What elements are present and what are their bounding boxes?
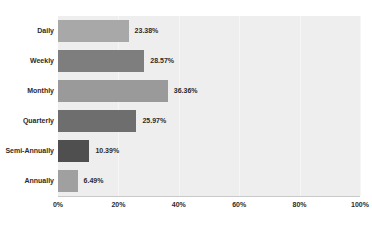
bar-chart: 23.38%28.57%36.36%25.97%10.39%6.49% Dail… (0, 0, 372, 227)
gridline-100% (360, 16, 361, 196)
bar-row: 36.36% (58, 76, 360, 106)
bar-row: 28.57% (58, 46, 360, 76)
bar-annually[interactable] (58, 170, 78, 192)
bar-daily[interactable] (58, 20, 129, 42)
bar-row: 23.38% (58, 16, 360, 46)
x-tick-label-0pct: 0% (53, 201, 63, 208)
x-tick-label-40pct: 40% (172, 201, 186, 208)
bar-value-label: 23.38% (129, 20, 159, 42)
bar-value-label: 36.36% (168, 80, 198, 102)
bar-monthly[interactable] (58, 80, 168, 102)
bar-value-label: 10.39% (89, 140, 119, 162)
bar-value-label: 6.49% (78, 170, 104, 192)
y-tick-label-annually: Annually (0, 166, 54, 196)
bar-value-label: 28.57% (144, 50, 174, 72)
y-tick-label-weekly: Weekly (0, 46, 54, 76)
y-axis-category-labels: DailyWeeklyMonthlyQuarterlySemi-Annually… (0, 16, 54, 196)
y-tick-label-daily: Daily (0, 16, 54, 46)
x-axis-line (58, 196, 360, 197)
x-tick-label-80pct: 80% (293, 201, 307, 208)
bar-weekly[interactable] (58, 50, 144, 72)
y-tick-label-semi-annually: Semi-Annually (0, 136, 54, 166)
y-tick-label-monthly: Monthly (0, 76, 54, 106)
y-tick-label-quarterly: Quarterly (0, 106, 54, 136)
bar-semi-annually[interactable] (58, 140, 89, 162)
x-axis-tick-labels: 0%20%40%60%80%100% (0, 201, 372, 215)
x-tick-label-60pct: 60% (232, 201, 246, 208)
x-tick-label-20pct: 20% (111, 201, 125, 208)
bar-quarterly[interactable] (58, 110, 136, 132)
bar-value-label: 25.97% (136, 110, 166, 132)
x-tick-label-100pct: 100% (351, 201, 369, 208)
bar-row: 10.39% (58, 136, 360, 166)
bar-row: 25.97% (58, 106, 360, 136)
bar-row: 6.49% (58, 166, 360, 196)
bars-layer: 23.38%28.57%36.36%25.97%10.39%6.49% (58, 16, 360, 196)
